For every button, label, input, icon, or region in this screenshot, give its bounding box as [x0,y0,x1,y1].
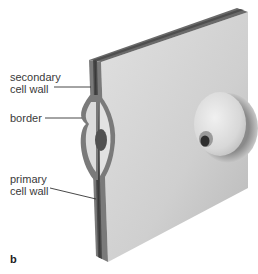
label-border: border [10,112,42,124]
label-primary-cell-wall: primary cell wall [10,173,49,197]
cell-wall-illustration [0,0,258,274]
leader-primary [50,188,96,199]
panel-label: b [10,253,17,265]
label-secondary-cell-wall: secondary cell wall [10,71,61,95]
